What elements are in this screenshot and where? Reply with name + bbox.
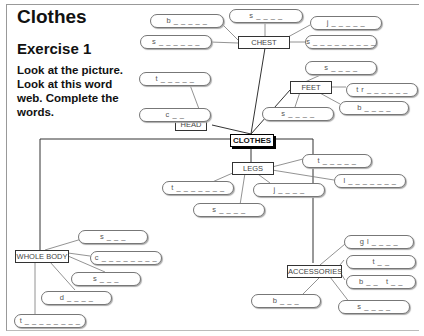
word-blank[interactable]: s _ _ _ _ xyxy=(193,203,265,217)
word-blank[interactable]: b _ _ _ _ _ xyxy=(150,14,224,28)
word-blank[interactable]: s _ _ _ xyxy=(71,272,141,286)
word-blank[interactable]: d _ _ _ _ xyxy=(41,291,112,305)
word-blank[interactable]: s _ _ _ xyxy=(78,230,148,244)
center-node-clothes: CLOTHES xyxy=(230,134,274,147)
word-blank[interactable]: t r _ _ _ _ _ _ xyxy=(346,83,418,97)
category-whole-body: WHOLE BODY xyxy=(15,250,69,263)
word-blank[interactable]: s _ _ _ _ xyxy=(229,9,303,23)
word-blank[interactable]: b _ _ _ _ xyxy=(339,101,409,115)
word-blank[interactable]: s _ _ _ _ xyxy=(338,300,410,314)
word-blank[interactable]: b _ _ t _ _ xyxy=(346,275,416,289)
word-blank[interactable]: b _ _ _ xyxy=(251,294,321,308)
word-blank[interactable]: t _ _ _ _ _ xyxy=(302,154,372,168)
word-blank[interactable]: t _ _ _ _ _ xyxy=(139,72,211,86)
word-blank[interactable]: s _ _ _ _ _ _ _ _ _ xyxy=(305,35,377,49)
category-legs: LEGS xyxy=(232,162,274,175)
word-blank[interactable]: t _ _ xyxy=(346,255,416,269)
category-feet: FEET xyxy=(290,81,332,94)
category-chest: CHEST xyxy=(238,36,290,49)
word-blank[interactable]: l _ _ _ _ _ _ _ xyxy=(334,174,406,188)
category-accessories: ACCESSORIES xyxy=(287,265,342,278)
word-blank[interactable]: j _ _ _ _ _ xyxy=(310,16,382,30)
word-blank[interactable]: j _ _ _ _ xyxy=(253,183,325,197)
word-blank[interactable]: t _ _ _ _ _ _ _ _ xyxy=(14,314,86,328)
word-blank[interactable]: s _ _ _ _ _ _ xyxy=(140,35,212,49)
word-blank[interactable]: c _ _ _ _ _ _ _ _ xyxy=(90,251,162,265)
word-blank[interactable]: s _ _ _ _ xyxy=(262,107,334,121)
word-blank[interactable]: s _ _ _ _ xyxy=(305,61,377,75)
word-blank[interactable]: g l _ _ _ _ xyxy=(344,235,414,249)
word-blank[interactable]: c _ _ xyxy=(139,108,211,122)
word-blank[interactable]: t _ _ _ _ _ _ _ xyxy=(162,181,234,195)
